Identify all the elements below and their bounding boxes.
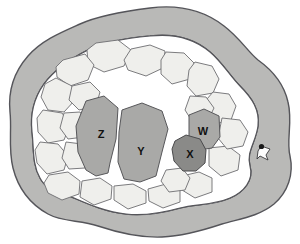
region-z-label: Z: [98, 128, 105, 140]
region-w-label: W: [198, 125, 209, 137]
figure-container: ZYWX: [0, 0, 300, 244]
region-x-label: X: [186, 148, 194, 160]
region-y-label: Y: [137, 145, 145, 157]
cross-section-diagram: ZYWX: [0, 0, 300, 244]
edge-marker-dot: [259, 144, 264, 149]
